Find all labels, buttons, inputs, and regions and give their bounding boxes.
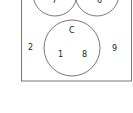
set-a-value: 7 <box>52 0 57 5</box>
universal-set-rectangle <box>22 0 132 81</box>
venn-diagram: 7 6 C 1 8 2 9 <box>0 0 133 113</box>
outside-value-left: 2 <box>28 43 33 52</box>
set-c-value-1: 1 <box>58 50 63 59</box>
set-c-label: C <box>69 26 75 35</box>
set-b-value: 6 <box>97 0 102 5</box>
outside-value-right: 9 <box>112 44 117 53</box>
set-c-value-2: 8 <box>82 50 87 59</box>
